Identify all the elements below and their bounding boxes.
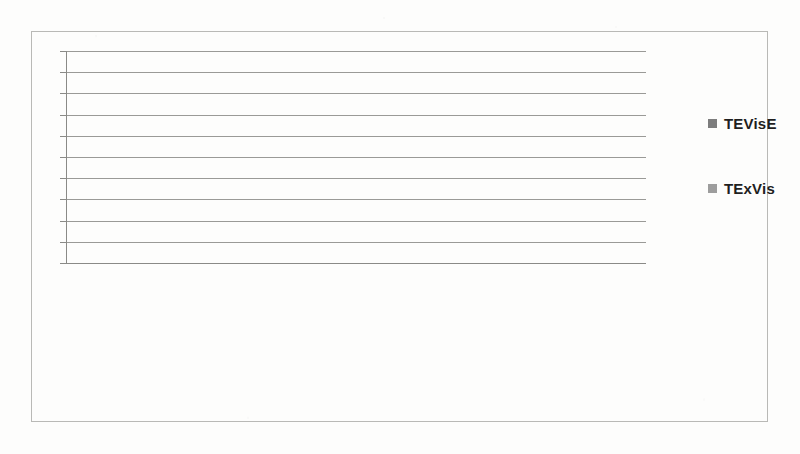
y-tick-0 [60, 263, 67, 264]
legend-item-tevise: TEVisE [708, 115, 777, 132]
legend-item-texvis: TExVis [708, 180, 775, 197]
plot-area [66, 51, 646, 263]
legend-swatch-texvis [708, 184, 717, 193]
y-axis-labels [30, 0, 58, 454]
legend-label-tevise: TEVisE [724, 115, 777, 132]
gridline-0 [66, 263, 646, 264]
legend-label-texvis: TExVis [724, 180, 775, 197]
legend-swatch-tevise [708, 119, 717, 128]
